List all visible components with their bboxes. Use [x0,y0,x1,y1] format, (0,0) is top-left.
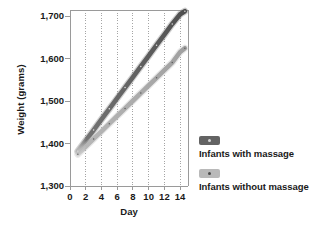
chart-figure: Weight (grams) 1,3001,4001,5001,6001,700… [0,0,330,231]
x-axis-title: Day [70,206,188,217]
chart-legend: Infants with massageInfants without mass… [199,136,330,202]
legend-label: Infants with massage [199,148,330,160]
legend-swatch-dot-icon [208,139,211,142]
legend-swatch-icon [199,136,220,145]
legend-entry[interactable]: Infants without massage [199,169,330,193]
legend-entry[interactable]: Infants with massage [199,136,330,160]
legend-swatch-dot-icon [208,172,211,175]
legend-label: Infants without massage [199,181,330,193]
legend-swatch-icon [199,169,220,178]
x-tick-label: 14 [168,191,192,202]
